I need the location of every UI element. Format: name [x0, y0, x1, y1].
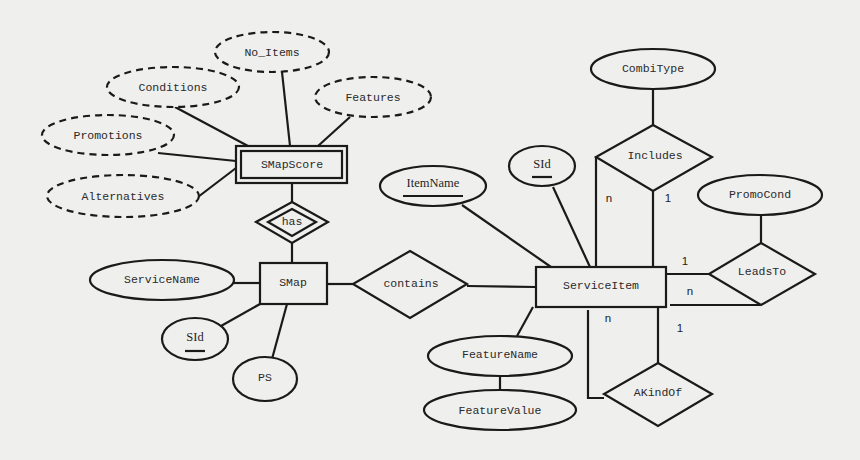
attr-serviceitem-sid[interactable]: SId: [509, 146, 575, 186]
cardinality-leadsto-n: n: [687, 285, 693, 297]
entity-label: SMap: [279, 276, 307, 289]
attr-servicename[interactable]: ServiceName: [90, 260, 234, 300]
attribute-label: PromoCond: [729, 188, 791, 201]
key-attribute-label: SId: [186, 330, 204, 344]
line-conditions-smapscore: [175, 107, 248, 146]
cardinality-includes-1: 1: [665, 192, 671, 204]
attr-features[interactable]: Features: [315, 77, 431, 117]
attribute-label: PS: [258, 371, 272, 384]
relationship-label: Includes: [627, 149, 682, 162]
attr-alternatives[interactable]: Alternatives: [47, 175, 199, 217]
cardinality-leadsto-1: 1: [682, 255, 688, 267]
attribute-label: FeatureName: [462, 348, 538, 361]
line-itemname-serviceitem: [462, 205, 551, 267]
attribute-label: ServiceName: [124, 273, 200, 286]
entity-label: ServiceItem: [563, 279, 639, 292]
line-serviceitem-akindof-n: [588, 310, 604, 398]
relationship-label: AKindOf: [634, 386, 682, 399]
relationship-label: has: [282, 215, 303, 228]
attr-ps[interactable]: PS: [233, 357, 297, 401]
key-attribute-label: ItemName: [407, 176, 460, 190]
relationship-contains[interactable]: contains: [353, 251, 467, 318]
cardinality-includes-n: n: [606, 192, 612, 204]
entity-smap[interactable]: SMap: [260, 263, 327, 304]
cardinality-akindof-n: n: [605, 312, 611, 324]
entity-label: SMapScore: [261, 158, 323, 171]
attr-featurename[interactable]: FeatureName: [428, 336, 572, 376]
line-contains-serviceitem: [467, 286, 536, 287]
attribute-label: Conditions: [138, 81, 207, 94]
attr-conditions[interactable]: Conditions: [107, 67, 239, 107]
line-noitems-smapscore: [282, 72, 290, 146]
attr-featurevalue[interactable]: FeatureValue: [424, 390, 576, 430]
cardinality-akindof-1: 1: [677, 322, 683, 334]
line-sid-serviceitem: [553, 187, 590, 267]
relationship-includes[interactable]: Includes: [596, 125, 712, 191]
attr-itemname[interactable]: ItemName: [380, 166, 486, 206]
line-alternatives-smapscore: [198, 168, 236, 197]
line-sid-smap: [221, 304, 260, 326]
er-diagram: No_Items Conditions Features Promotions …: [0, 0, 860, 460]
attr-combitype[interactable]: CombiType: [591, 49, 715, 89]
relationship-label: contains: [383, 277, 438, 290]
relationship-has[interactable]: has: [256, 202, 328, 243]
line-features-smapscore: [318, 117, 350, 146]
relationship-akindof[interactable]: AKindOf: [604, 363, 712, 426]
entity-smapscore[interactable]: SMapScore: [236, 146, 347, 183]
attr-promotions[interactable]: Promotions: [42, 115, 174, 155]
attr-smap-sid[interactable]: SId: [162, 318, 228, 360]
entity-serviceitem[interactable]: ServiceItem: [536, 267, 666, 307]
relationship-leadsto[interactable]: LeadsTo: [709, 243, 815, 305]
line-promotions-smapscore: [158, 153, 236, 161]
attr-no-items[interactable]: No_Items: [215, 32, 329, 72]
er-diagram-canvas: No_Items Conditions Features Promotions …: [0, 0, 860, 460]
line-ps-smap: [272, 304, 287, 359]
attribute-label: No_Items: [244, 46, 299, 59]
attribute-label: CombiType: [622, 62, 684, 75]
relationship-label: LeadsTo: [738, 265, 786, 278]
attribute-label: Features: [345, 91, 400, 104]
attribute-label: FeatureValue: [459, 404, 542, 417]
attribute-label: Alternatives: [82, 190, 165, 203]
attr-promocond[interactable]: PromoCond: [698, 175, 822, 215]
attribute-label: Promotions: [73, 129, 142, 142]
line-serviceitem-featurename: [517, 307, 533, 336]
key-attribute-label: SId: [533, 157, 551, 171]
